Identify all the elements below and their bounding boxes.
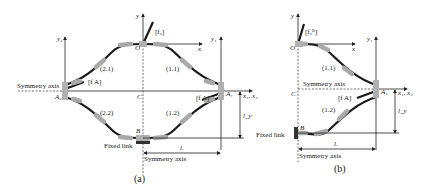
beam-1-2-b	[298, 97, 376, 135]
label-lx-b: lₓ	[334, 140, 338, 148]
label-x1x2-b: x₁, x₂	[397, 89, 413, 97]
label-symmetry-axis-h-b: Symmetry axis	[303, 80, 345, 88]
label-a1-b: A₁	[380, 88, 388, 96]
panel-b: y O x [f₀ᴿ] y₁ (1.1) Symmetry axis C A₁ …	[256, 12, 413, 175]
label-x1x2-a: x₁, x₂	[242, 92, 258, 100]
node-a1	[218, 82, 224, 100]
label-b-b: B	[300, 124, 305, 132]
label-c-b: C	[291, 90, 296, 98]
node-o	[139, 41, 147, 47]
label-y-a: y	[135, 12, 140, 20]
node-a1-b	[373, 80, 379, 98]
label-a2: A₂	[54, 93, 62, 101]
label-y-b: y	[290, 12, 295, 20]
node-a2	[62, 82, 68, 100]
label-seg-2-1: (2.1)	[100, 65, 114, 73]
beam-2-2	[65, 97, 143, 138]
diagram-canvas: y O x [f₀] y₂ y₁ (2.1) (1.1) [f A] [f A]…	[0, 0, 430, 189]
label-seg-1-2-b: (1.2)	[322, 106, 336, 114]
label-c-a: C	[137, 93, 142, 101]
label-ly-b: l_y	[398, 107, 407, 115]
label-y1-a: y₁	[210, 35, 217, 43]
label-seg-1-2: (1.2)	[166, 109, 180, 117]
node-o-b	[295, 41, 303, 47]
force-f0-arrow-a	[143, 22, 153, 44]
label-origin-b: O	[290, 44, 295, 52]
caption-b: (b)	[334, 163, 346, 175]
label-a1-a: A₁	[225, 90, 233, 98]
fixed-link-block-a	[136, 141, 150, 144]
label-seg-1-1: (1.1)	[166, 65, 180, 73]
label-fa-right-a: [f A]	[196, 94, 209, 102]
label-f0-b: [f₀ᴿ]	[305, 28, 317, 36]
beam-1-2	[143, 97, 221, 138]
label-symmetry-axis-v-a: Symmetry axis	[144, 155, 186, 163]
label-y1-b: y₁	[366, 35, 373, 43]
label-symmetry-axis-h-a: Symmetry axis	[17, 82, 59, 90]
label-ly-a: l_y	[243, 112, 252, 120]
caption-a: (a)	[134, 173, 145, 185]
label-fa-left-a: [f A]	[88, 78, 101, 86]
fixed-link-block-b	[294, 127, 298, 139]
label-fa-b: [f A]	[338, 94, 351, 102]
label-seg-1-1-b: (1.1)	[322, 64, 336, 72]
label-b-a: B	[136, 127, 141, 135]
beam-1-1	[143, 44, 221, 85]
label-seg-2-2: (2.2)	[100, 109, 114, 117]
label-y2-a: y₂	[56, 35, 63, 43]
label-lx-a: lₓ	[180, 144, 184, 152]
beam-1-1-b	[298, 44, 376, 85]
panel-a: y O x [f₀] y₂ y₁ (2.1) (1.1) [f A] [f A]…	[17, 12, 258, 185]
label-x-a: x	[197, 45, 202, 53]
label-f0-a: [f₀]	[155, 28, 164, 36]
label-symmetry-axis-v-b: Symmetry axis	[299, 152, 341, 160]
label-origin-a: O	[135, 44, 140, 52]
label-fixed-link-a: Fixed link	[104, 142, 133, 150]
label-fixed-link-b: Fixed link	[256, 131, 285, 139]
label-x-b: x	[351, 45, 356, 53]
